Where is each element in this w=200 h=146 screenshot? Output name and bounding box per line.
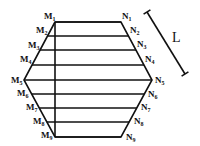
label-M9: M9 xyxy=(41,130,53,141)
label-M1: M1 xyxy=(44,11,56,22)
label-M5: M5 xyxy=(11,75,23,86)
label-M7: M7 xyxy=(26,102,38,113)
label-M3: M3 xyxy=(28,40,40,51)
label-N5: N5 xyxy=(155,75,165,86)
label-M8: M8 xyxy=(33,116,45,127)
label-M6: M6 xyxy=(17,88,29,99)
label-N7: N7 xyxy=(141,102,151,113)
label-N8: N8 xyxy=(134,116,144,127)
label-N4: N4 xyxy=(145,54,155,65)
hexagon-diagram: M1M2M3M4M5M6M7M8M9N1N2N3N4N5N6N7N8N9L xyxy=(0,0,200,146)
label-N1: N1 xyxy=(122,11,132,22)
label-M2: M2 xyxy=(36,25,48,36)
label-N2: N2 xyxy=(130,25,140,36)
dimension-label: L xyxy=(172,30,181,45)
label-N6: N6 xyxy=(148,89,158,100)
label-N9: N9 xyxy=(126,132,136,143)
label-N3: N3 xyxy=(137,39,147,50)
label-M4: M4 xyxy=(20,54,32,65)
